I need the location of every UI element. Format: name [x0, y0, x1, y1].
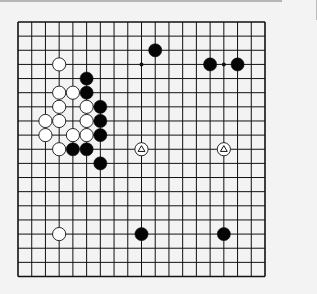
white-stone[interactable]	[66, 129, 79, 142]
white-stone[interactable]	[217, 143, 230, 156]
black-stone[interactable]	[217, 227, 230, 240]
black-stone[interactable]	[231, 58, 244, 71]
black-stone[interactable]	[80, 143, 93, 156]
white-stone[interactable]	[53, 143, 66, 156]
black-stone[interactable]	[66, 143, 79, 156]
black-stone[interactable]	[80, 72, 93, 85]
black-stone[interactable]	[94, 157, 107, 170]
white-stone[interactable]	[80, 129, 93, 142]
star-point	[140, 62, 144, 66]
black-stone[interactable]	[94, 129, 107, 142]
black-stone[interactable]	[80, 86, 93, 99]
black-stone[interactable]	[94, 114, 107, 127]
black-stone[interactable]	[135, 227, 148, 240]
black-stone[interactable]	[149, 44, 162, 57]
white-stone[interactable]	[39, 129, 52, 142]
white-stone[interactable]	[53, 227, 66, 240]
white-stone[interactable]	[39, 114, 52, 127]
go-board[interactable]	[0, 0, 282, 294]
white-stone[interactable]	[80, 114, 93, 127]
white-stone[interactable]	[135, 143, 148, 156]
white-stone[interactable]	[53, 114, 66, 127]
black-stone[interactable]	[94, 100, 107, 113]
black-stone[interactable]	[204, 58, 217, 71]
white-stone[interactable]	[66, 86, 79, 99]
white-stone[interactable]	[53, 86, 66, 99]
white-stone[interactable]	[80, 100, 93, 113]
white-stone[interactable]	[53, 58, 66, 71]
star-point	[222, 62, 226, 66]
white-stone[interactable]	[53, 100, 66, 113]
